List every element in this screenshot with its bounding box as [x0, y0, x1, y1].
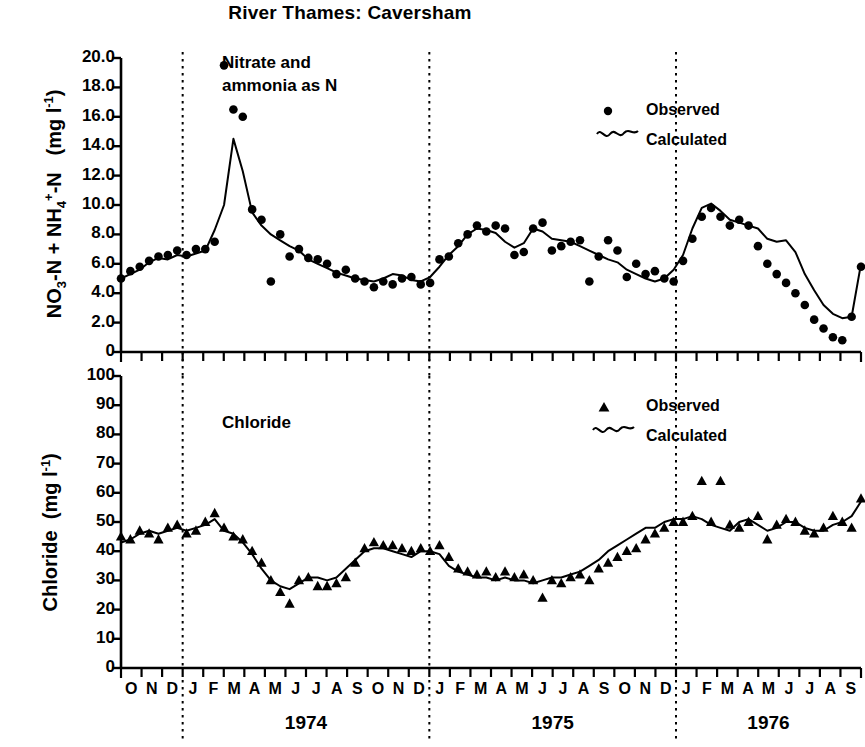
xaxis-month-label: S [346, 680, 368, 698]
ytick-label: 40 [43, 540, 115, 560]
nitrate-legend-calculated: Calculated [646, 131, 727, 149]
xaxis-month-label: N [634, 680, 656, 698]
nitrate-annotation: Nitrate and ammonia as N [222, 52, 337, 98]
ytick-label: 2.0 [43, 312, 115, 332]
xaxis-month-label: J [531, 680, 553, 698]
xaxis-month-label: A [490, 680, 512, 698]
ytick-label: 8.0 [43, 223, 115, 243]
xaxis-month-label: A [819, 680, 841, 698]
ytick-label: 70 [43, 453, 115, 473]
xaxis-month-label: J [778, 680, 800, 698]
xaxis-year-label: 1976 [729, 712, 809, 734]
ytick-label: 20 [43, 599, 115, 619]
ytick-label: 80 [43, 423, 115, 443]
xaxis-month-label: M [264, 680, 286, 698]
xaxis-month-label: D [408, 680, 430, 698]
ytick-label: 10 [43, 628, 115, 648]
xaxis-month-label: F [449, 680, 471, 698]
xaxis-month-label: O [367, 680, 389, 698]
xaxis-month-label: J [552, 680, 574, 698]
ytick-label: 90 [43, 394, 115, 414]
xaxis-year-label: 1974 [266, 712, 346, 734]
chart-figure: River Thames: Caversham NO3-N + NH4+-N (… [0, 0, 865, 747]
xaxis-year-label: 1975 [513, 712, 593, 734]
ytick-label: 16.0 [43, 106, 115, 126]
ytick-label: 30 [43, 569, 115, 589]
ytick-label: 100 [43, 365, 115, 385]
nitrate-legend-observed: Observed [646, 101, 720, 119]
ytick-label: 60 [43, 482, 115, 502]
xaxis-month-label: J [305, 680, 327, 698]
xaxis-month-label: M [758, 680, 780, 698]
xaxis-month-label: A [573, 680, 595, 698]
ytick-label: 12.0 [43, 165, 115, 185]
ytick-label: 0 [43, 341, 115, 361]
ytick-label: 0 [43, 657, 115, 677]
chloride-legend-observed: Observed [646, 397, 720, 415]
chloride-legend-calculated: Calculated [646, 427, 727, 445]
xaxis-month-label: M [470, 680, 492, 698]
ytick-label: 10.0 [43, 194, 115, 214]
xaxis-month-label: D [655, 680, 677, 698]
xaxis-month-label: M [223, 680, 245, 698]
xaxis-month-label: J [285, 680, 307, 698]
xaxis-month-label: F [203, 680, 225, 698]
xaxis-month-label: J [799, 680, 821, 698]
xaxis-month-label: J [675, 680, 697, 698]
page-title: River Thames: Caversham [0, 2, 700, 24]
xaxis-month-label: A [244, 680, 266, 698]
xaxis-month-label: S [593, 680, 615, 698]
ytick-label: 4.0 [43, 282, 115, 302]
xaxis-month-label: J [182, 680, 204, 698]
xaxis-month-label: N [388, 680, 410, 698]
xaxis-month-label: N [141, 680, 163, 698]
xaxis-month-label: S [840, 680, 862, 698]
ytick-label: 14.0 [43, 135, 115, 155]
xaxis-month-label: D [161, 680, 183, 698]
xaxis-month-label: O [614, 680, 636, 698]
xaxis-month-label: F [696, 680, 718, 698]
ytick-label: 50 [43, 511, 115, 531]
chloride-annotation: Chloride [222, 412, 291, 435]
plot-canvas [0, 0, 865, 747]
xaxis-month-label: A [326, 680, 348, 698]
ytick-label: 18.0 [43, 76, 115, 96]
xaxis-month-label: M [716, 680, 738, 698]
ytick-label: 6.0 [43, 253, 115, 273]
xaxis-month-label: J [429, 680, 451, 698]
xaxis-month-label: O [120, 680, 142, 698]
ytick-label: 20.0 [43, 47, 115, 67]
xaxis-month-label: M [511, 680, 533, 698]
xaxis-month-label: A [737, 680, 759, 698]
